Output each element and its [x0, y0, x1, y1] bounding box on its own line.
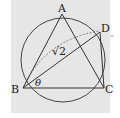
segment-AC — [62, 14, 104, 88]
geometry-figure: A B C D √2 θ — [0, 0, 120, 118]
geometry-svg: A B C D √2 θ — [0, 0, 120, 118]
label-C: C — [105, 83, 113, 96]
label-A: A — [57, 2, 67, 15]
circumscribed-circle — [21, 18, 105, 102]
label-D: D — [101, 22, 110, 35]
label-angle-theta: θ — [35, 77, 41, 88]
label-B: B — [11, 83, 19, 96]
label-length-BD: √2 — [52, 45, 66, 58]
